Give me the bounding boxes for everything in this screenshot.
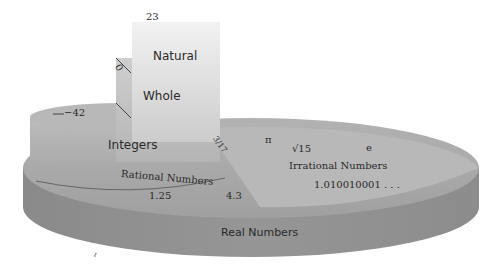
integer-value: −42 (64, 107, 85, 118)
rational-value-1: 1.25 (149, 190, 171, 201)
rational-value-2: 4.3 (226, 190, 242, 201)
irrational-decimal-value: 1.010010001 . . . (314, 179, 400, 190)
real-numbers-label: Real Numbers (221, 226, 298, 239)
sqrt-value: √15 (292, 143, 311, 154)
whole-label: Whole (143, 89, 181, 103)
integers-label: Integers (108, 138, 157, 152)
pi-value: π (265, 134, 272, 145)
natural-value: 23 (146, 11, 159, 22)
e-value: e (366, 142, 372, 153)
number-sets-diagram: 23 Natural 0 Whole −42 Integers 3/17 Rat… (0, 0, 502, 265)
irrational-label: Irrational Numbers (289, 160, 387, 171)
natural-block (132, 22, 220, 142)
natural-label: Natural (153, 49, 197, 63)
